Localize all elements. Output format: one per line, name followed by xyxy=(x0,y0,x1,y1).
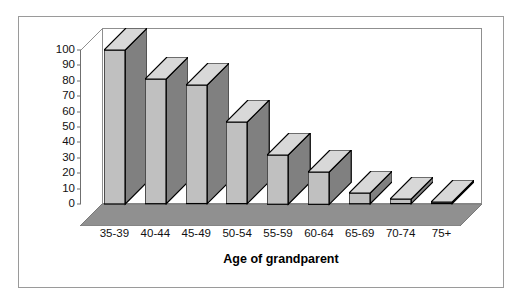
bar-shape xyxy=(349,171,392,206)
y-axis-tick-label: 40 xyxy=(62,137,75,149)
x-axis-tick-label: 65-69 xyxy=(345,228,374,240)
y-axis-tick-mark xyxy=(77,96,81,97)
y-axis-tick-label: 10 xyxy=(62,183,75,195)
y-axis-tick-mark xyxy=(77,188,81,189)
x-axis-tick-label: 60-64 xyxy=(304,228,333,240)
y-axis-tick-label: 90 xyxy=(62,60,75,72)
bar-column xyxy=(390,177,433,206)
x-axis-tick-label: 70-74 xyxy=(386,228,415,240)
y-axis-tick-mark xyxy=(77,111,81,112)
x-axis-ticks: 35-3940-4445-4950-5455-5960-6465-6970-74… xyxy=(80,228,482,246)
plot-depth-edges xyxy=(80,28,104,52)
bar-shape xyxy=(104,28,147,206)
x-axis-tick-label: 75+ xyxy=(432,228,452,240)
chart-figure: 0102030405060708090100 % 35-3940-4445-49… xyxy=(0,0,523,306)
y-axis-tick-mark xyxy=(77,65,81,66)
y-axis-tick-mark xyxy=(77,50,81,51)
plot-area: 0102030405060708090100 % xyxy=(80,28,482,224)
y-axis-tick-label: 0 xyxy=(69,198,75,210)
x-axis-tick-label: 40-44 xyxy=(141,228,170,240)
x-axis-tick-label: 50-54 xyxy=(222,228,251,240)
bar-shape xyxy=(186,63,229,206)
y-axis-tick-mark xyxy=(77,142,81,143)
bar-column xyxy=(267,133,310,206)
x-axis-tick-label: 55-59 xyxy=(263,228,292,240)
y-axis-tick-mark xyxy=(77,204,81,205)
bar-column xyxy=(431,180,474,206)
bar-column xyxy=(226,100,269,206)
y-axis-tick-mark xyxy=(77,173,81,174)
y-axis-tick-label: 80 xyxy=(62,75,75,87)
bar-column xyxy=(145,57,188,206)
bar-column xyxy=(104,28,147,206)
bar-shape xyxy=(267,133,310,206)
x-axis-title: Age of grandparent xyxy=(80,252,482,266)
y-axis-tick-label: 100 xyxy=(56,44,75,56)
y-axis-tick-label: 60 xyxy=(62,106,75,118)
y-axis-tick-mark xyxy=(77,127,81,128)
bar-shape xyxy=(308,150,351,206)
y-axis-tick-mark xyxy=(77,80,81,81)
y-axis-tick-label: 70 xyxy=(62,90,75,102)
y-axis-tick-label: 20 xyxy=(62,167,75,179)
y-axis-tick-label: 50 xyxy=(62,121,75,133)
bar-shape xyxy=(431,180,474,206)
bar-shape xyxy=(390,177,433,206)
bar-shape xyxy=(145,57,188,206)
bar-shape xyxy=(226,100,269,206)
y-axis-tick-mark xyxy=(77,157,81,158)
bar-column xyxy=(186,63,229,206)
bar-column xyxy=(349,171,392,206)
x-axis-tick-label: 35-39 xyxy=(100,228,129,240)
x-axis-tick-label: 45-49 xyxy=(182,228,211,240)
y-axis-tick-label: 30 xyxy=(62,152,75,164)
bar-column xyxy=(308,150,351,206)
